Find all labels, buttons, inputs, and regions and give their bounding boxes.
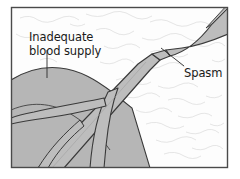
label-inadequate-blood-supply-line1: Inadequate [29,30,93,44]
illustration-content: Inadequate blood supply Spasm [11,4,228,168]
illustration-figure: Inadequate blood supply Spasm [0,0,240,179]
label-inadequate-blood-supply-line2: blood supply [29,44,101,58]
illustration-canvas: Inadequate blood supply Spasm [0,0,240,179]
label-spasm: Spasm [184,66,222,80]
